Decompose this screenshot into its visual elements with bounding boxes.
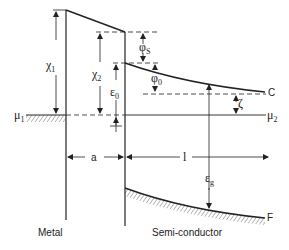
valence-band-label: F <box>267 212 273 223</box>
eps0-label: ε0 <box>110 85 119 101</box>
mu2-label: μ2 <box>267 108 277 124</box>
eps-g-label: εg <box>205 171 214 187</box>
phi-s-label: φS <box>139 40 150 56</box>
l-label: l <box>183 150 187 164</box>
conduction-band-label: C <box>268 87 275 98</box>
metal-region-label: Metal <box>38 227 62 238</box>
semiconductor-region-label: Semi-conductor <box>152 227 223 238</box>
a-label: a <box>91 152 97 163</box>
mu1-label: μ1 <box>14 108 24 124</box>
band-diagram: χ1 χ2 ε0 φS φ0 ζ C μ2 μ1 a l εg F Metal … <box>0 0 289 250</box>
zeta-label: ζ <box>238 96 243 110</box>
metal-fermi-hatch <box>26 115 66 122</box>
barrier-top <box>66 10 125 32</box>
conduction-band <box>125 63 265 92</box>
valence-band-hatch <box>125 188 265 225</box>
chi1-label: χ1 <box>45 58 55 74</box>
chi2-label: χ2 <box>91 67 101 83</box>
